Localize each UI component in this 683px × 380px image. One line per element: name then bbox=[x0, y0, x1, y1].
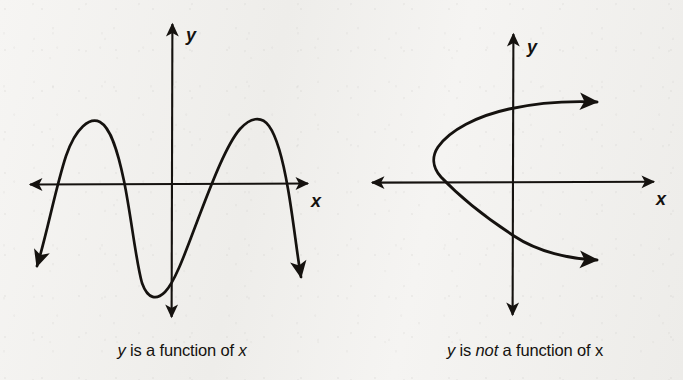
y-axis-right bbox=[513, 34, 514, 315]
caption-variable-x-left: x bbox=[238, 341, 246, 359]
caption-variable-y-right: y bbox=[447, 341, 455, 359]
caption-variable-y-left: y bbox=[117, 341, 125, 359]
x-axis-left bbox=[30, 184, 308, 185]
caption-middle-right: is bbox=[455, 341, 475, 359]
y-axis-label-right: y bbox=[527, 38, 537, 56]
caption-suffix-right: a function of x bbox=[498, 341, 603, 359]
caption-middle-left: is a function of bbox=[126, 341, 239, 359]
x-axis-label-right: x bbox=[656, 190, 666, 208]
wave-curve bbox=[37, 119, 301, 297]
caption-emphasis-not: not bbox=[476, 341, 499, 359]
sideways-parabola-curve bbox=[434, 102, 597, 260]
figure-panel-function: y x y is a function of x bbox=[0, 0, 341, 380]
y-axis-label-left: y bbox=[186, 26, 196, 44]
x-axis-label-left: x bbox=[311, 192, 321, 210]
caption-function: y is a function of x bbox=[117, 342, 246, 359]
caption-not-function: y is not a function of x bbox=[447, 342, 603, 359]
plot-right-not-function bbox=[342, 0, 683, 380]
y-axis-left bbox=[172, 24, 173, 317]
plot-left-function bbox=[0, 0, 341, 380]
figure-panel-not-function: y x y is not a function of x bbox=[342, 0, 683, 380]
